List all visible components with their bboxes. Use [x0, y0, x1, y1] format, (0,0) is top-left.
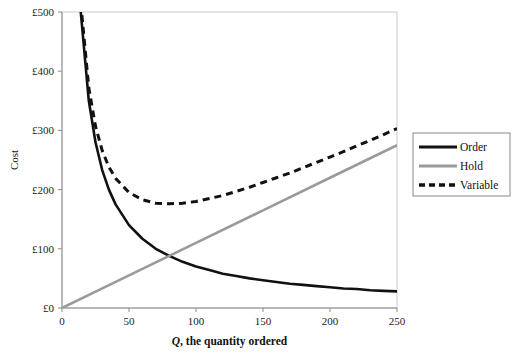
chart-canvas: £0£100£200£300£400£500050100150200250Cos… [0, 0, 515, 359]
y-tick-label: £300 [32, 124, 55, 136]
x-tick-label: 50 [124, 315, 136, 327]
x-tick-label: 250 [389, 315, 406, 327]
x-tick-label: 150 [255, 315, 272, 327]
y-axis-title: Cost [8, 150, 20, 170]
x-axis-title-rest: , the quantity ordered [180, 335, 288, 348]
x-axis-title: Q, the quantity ordered [172, 335, 288, 348]
series-line-order [81, 12, 397, 291]
series-line-variable [81, 3, 397, 204]
series-line-hold [62, 145, 397, 308]
legend-label-variable: Variable [460, 179, 498, 191]
eoq-cost-chart: £0£100£200£300£400£500050100150200250Cos… [0, 0, 515, 359]
y-tick-label: £400 [32, 65, 55, 77]
legend-label-hold: Hold [460, 160, 483, 172]
x-tick-label: 100 [188, 315, 205, 327]
x-tick-label: 0 [59, 315, 65, 327]
plot-area-border [62, 12, 397, 308]
x-tick-label: 200 [322, 315, 339, 327]
x-axis-title-variable: Q [172, 335, 180, 347]
y-tick-label: £200 [32, 184, 55, 196]
legend-label-order: Order [460, 141, 487, 153]
y-tick-label: £500 [32, 6, 55, 18]
y-tick-label: £0 [43, 302, 55, 314]
y-tick-label: £100 [32, 243, 55, 255]
